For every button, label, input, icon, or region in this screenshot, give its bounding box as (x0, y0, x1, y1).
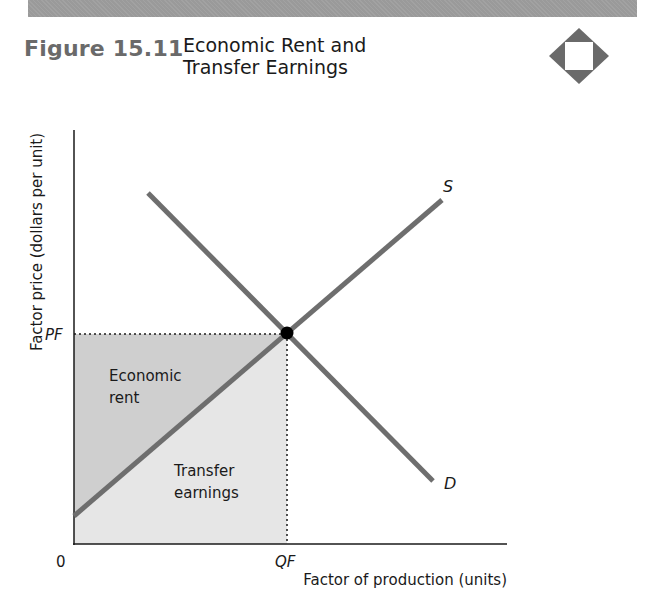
origin-label: 0 (56, 553, 66, 571)
transfer-earnings-label-line1: Transfer (173, 462, 235, 480)
x-axis-title: Factor of production (units) (303, 571, 507, 589)
demand-label: D (444, 474, 456, 493)
chart-area: S D PF QF 0 Economic rent Transfer earni… (0, 0, 647, 596)
y-axis-title: Factor price (dollars per unit) (28, 133, 46, 351)
equilibrium-point (281, 327, 294, 340)
supply-label: S (443, 177, 453, 196)
economic-rent-label-line2: rent (109, 389, 140, 407)
economic-rent-label-line1: Economic (109, 367, 182, 385)
transfer-earnings-label-line2: earnings (174, 484, 239, 502)
qf-tick-label: QF (275, 553, 296, 571)
pf-tick-label: PF (45, 326, 63, 344)
